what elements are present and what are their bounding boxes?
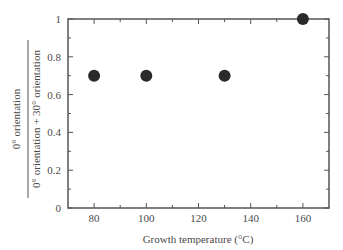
data-point-marker	[219, 70, 231, 82]
y-tick-labels: 00.20.40.60.81	[47, 13, 61, 214]
y-tick-label: 0.8	[47, 51, 61, 63]
x-tick-label: 160	[295, 212, 312, 224]
data-point-marker	[140, 70, 152, 82]
data-point-marker	[297, 13, 309, 25]
y-tick-label: 0	[56, 202, 62, 214]
y-tick-label: 0.4	[47, 126, 61, 138]
y-tick-label: 1	[56, 13, 62, 25]
x-tick-label: 100	[138, 212, 155, 224]
y-tick-label: 0.2	[47, 164, 61, 176]
y-axis-title: 0° orientation 0° orientation + 30° orie…	[10, 40, 42, 198]
scatter-chart: 0° orientation 0° orientation + 30° orie…	[0, 0, 343, 250]
plot-frame	[68, 19, 329, 208]
x-axis-title: Growth temperature (°C)	[143, 233, 254, 246]
x-tick-labels: 80100120140160	[89, 212, 312, 224]
x-tick-label: 80	[89, 212, 101, 224]
x-tick-label: 140	[242, 212, 259, 224]
x-tick-label: 120	[190, 212, 207, 224]
y-axis-title-denominator: 0° orientation + 30° orientation	[30, 50, 42, 188]
y-tick-label: 0.6	[47, 89, 61, 101]
y-axis-title-numerator: 0° orientation	[10, 88, 22, 149]
axis-ticks	[68, 19, 329, 208]
data-point-marker	[88, 70, 100, 82]
